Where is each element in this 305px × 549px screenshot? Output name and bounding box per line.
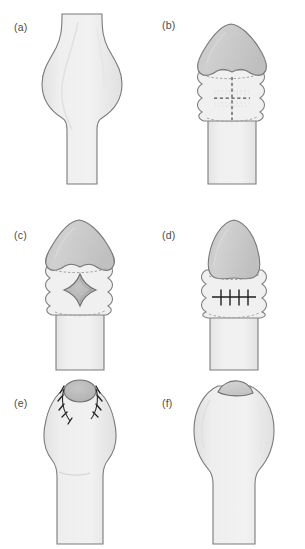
lower-shaft (210, 312, 258, 370)
tip-cap (218, 381, 253, 396)
panel-c-rhomboid-excision: (c) (0, 212, 152, 392)
panel-f-healed-result: (f) (152, 372, 304, 549)
glans (46, 220, 115, 270)
graft-disc (64, 380, 96, 402)
glans (208, 220, 259, 279)
panel-b-incision-marking: (b) (152, 8, 304, 188)
panel-f-illustration (152, 372, 304, 549)
lower-shaft (208, 116, 256, 184)
panel-d-transverse-closure: (d) (152, 212, 304, 392)
panel-a-preoperative-bulge: (a) (0, 8, 152, 188)
panel-e-grafted-tip-sutured: (e) (0, 372, 152, 549)
shaft-outline (42, 14, 122, 184)
shaft-and-head-outline (44, 386, 116, 544)
panel-e-illustration (0, 372, 152, 549)
panel-d-illustration (152, 212, 304, 392)
panel-b-illustration (152, 8, 304, 188)
lower-shaft (56, 310, 104, 370)
glans (198, 24, 267, 75)
panel-c-illustration (0, 212, 152, 392)
foreskin-collar (198, 70, 265, 121)
panel-a-illustration (0, 8, 152, 188)
